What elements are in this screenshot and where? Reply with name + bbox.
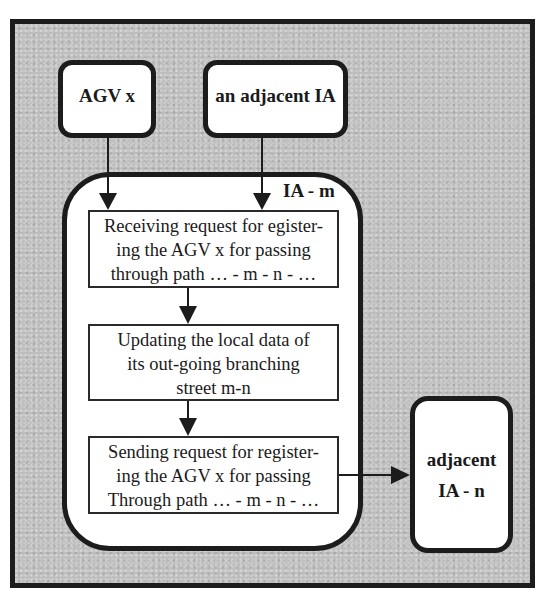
ia-m-label: IA - m [283,180,335,202]
adjacent-ia-n-node: adjacent IA - n [410,396,513,553]
adjacent-ia-n-label-line1: adjacent [427,444,497,475]
adjacent-ia-node: an adjacent IA [203,60,348,138]
step-line: its out-going branching [90,352,337,376]
step-line: ing the AGV x for passing [90,238,337,262]
step-line: Through path … - m - n - … [90,488,337,512]
agv-x-label: AGV x [63,85,151,107]
adjacent-ia-n-label-line2: IA - n [438,475,484,506]
step-receiving-request: Receiving request for egister- ing the A… [88,210,339,288]
step-sending-request: Sending request for register- ing the AG… [88,436,339,514]
agv-x-node: AGV x [58,60,156,138]
step-updating-local-data: Updating the local data of its out-going… [88,324,339,401]
adjacent-ia-label: an adjacent IA [208,85,343,107]
step-line: Receiving request for egister- [90,214,337,238]
step-line: Updating the local data of [90,328,337,352]
step-line: street m-n [90,376,337,400]
step-line: Sending request for register- [90,440,337,464]
step-line: through path … - m - n - … [90,262,337,286]
step-line: ing the AGV x for passing [90,464,337,488]
